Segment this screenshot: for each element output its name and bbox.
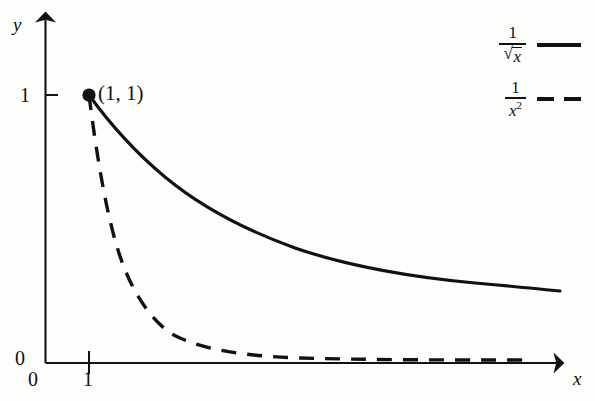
- solid-line-swatch: [537, 43, 581, 48]
- x-tick-label-0: 0: [28, 369, 38, 389]
- legend-item-one-over-x-squared: 1 x2: [455, 72, 585, 126]
- dashed-line-swatch: [537, 97, 581, 102]
- y-axis-label: y: [13, 14, 21, 36]
- point-marker-1-1: [82, 88, 95, 101]
- point-annotation-label: (1, 1): [98, 83, 144, 104]
- legend-sample-dashed: [537, 97, 585, 102]
- legend-formula-one-over-sqrt-x: 1 √ x: [498, 24, 527, 65]
- dash-segment: [564, 97, 581, 102]
- legend-numerator: 1: [498, 24, 527, 43]
- legend-denominator: x2: [504, 99, 527, 120]
- x-axis-label: x: [573, 368, 581, 390]
- denominator-base: x: [509, 101, 517, 120]
- legend: 1 √ x 1 x2: [455, 18, 585, 126]
- dash-segment: [537, 97, 554, 102]
- y-tick-label-1: 1: [20, 85, 30, 105]
- figure-container: y x 1 0 0 1 (1, 1) 1 √ x: [0, 0, 595, 401]
- radical-glyph: √: [503, 45, 512, 63]
- denominator-exponent: 2: [517, 99, 523, 111]
- legend-sample-solid: [537, 43, 585, 48]
- radicand: x: [512, 47, 522, 66]
- x-tick-label-1: 1: [83, 369, 93, 389]
- curve-one-over-x-squared: [89, 95, 530, 360]
- legend-formula-one-over-x-squared: 1 x2: [504, 79, 527, 120]
- sqrt-icon: √ x: [503, 46, 522, 66]
- legend-numerator: 1: [504, 79, 527, 98]
- legend-item-one-over-sqrt-x: 1 √ x: [455, 18, 585, 72]
- y-tick-label-0: 0: [15, 348, 25, 368]
- legend-denominator: √ x: [498, 45, 527, 66]
